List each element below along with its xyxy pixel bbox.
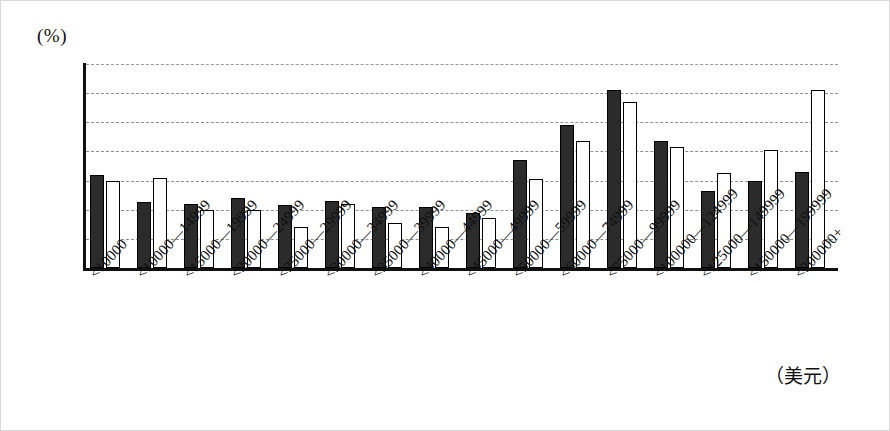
x-axis-unit-label: （美元） (765, 361, 841, 388)
y-axis-unit-label: (%) (37, 25, 67, 47)
bar-dark (560, 125, 574, 268)
chart-figure: (%) 02468101214 <10000<10000—14999<15000… (0, 0, 890, 431)
bar-group (88, 64, 135, 268)
bar-dark (607, 90, 621, 268)
